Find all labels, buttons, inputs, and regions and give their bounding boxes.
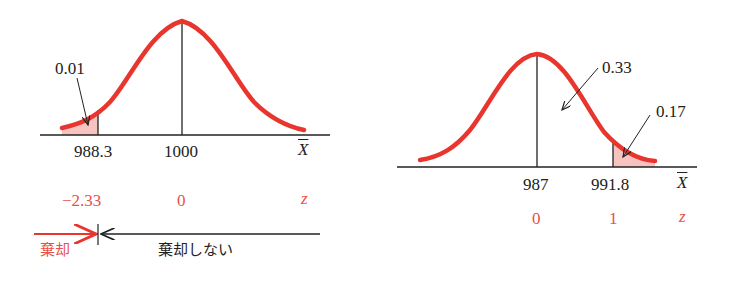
right-tail-area-label: 0.17 xyxy=(656,103,686,120)
left-x-axis-label: X xyxy=(298,141,308,158)
left-tail-pointer xyxy=(77,78,88,125)
right-x-axis-label: X xyxy=(677,174,687,191)
left-x-tick-critical: 988.3 xyxy=(74,143,112,160)
right-tail-pointer xyxy=(623,115,650,157)
right-normal-curve-group xyxy=(397,53,697,167)
reject-region-label: 棄却 xyxy=(40,243,70,258)
left-z-tick-mean: 0 xyxy=(177,192,186,209)
right-x-tick-mean: 987 xyxy=(523,176,549,193)
diagram-canvas xyxy=(0,0,731,281)
right-z-axis-label: z xyxy=(679,208,686,225)
left-z-axis-label: z xyxy=(301,190,308,207)
right-z-tick-mean: 0 xyxy=(532,210,541,227)
not-reject-region-label: 棄却しない xyxy=(158,243,233,258)
middle-area-label: 0.33 xyxy=(602,59,632,76)
left-x-tick-mean: 1000 xyxy=(164,143,198,160)
left-tail-area-label: 0.01 xyxy=(55,60,85,77)
left-bell-curve xyxy=(62,21,304,130)
right-x-tick-critical: 991.8 xyxy=(591,176,629,193)
left-z-tick-critical: −2.33 xyxy=(62,192,101,209)
right-z-tick-critical: 1 xyxy=(609,210,618,227)
